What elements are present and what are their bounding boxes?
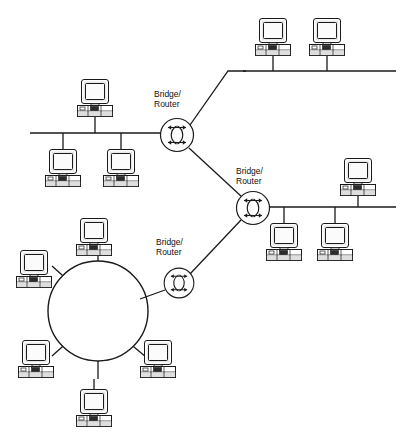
labels-group: Bridge/ Router Bridge/ Router Bridge/ Ro… <box>154 89 264 257</box>
computer-ring-bottom-left[interactable] <box>19 341 54 378</box>
bridge-router-icon <box>237 192 270 225</box>
token-ring-lan <box>48 246 148 379</box>
computer-top-bus-2[interactable] <box>310 19 345 56</box>
network-topology-svg: Bridge/ Router Bridge/ Router Bridge/ Ro… <box>0 0 402 433</box>
link-router-1-to-router-2 <box>189 148 242 197</box>
ring-circle <box>48 261 148 361</box>
computer-right-bus-lower-1[interactable] <box>267 224 302 261</box>
link-top-bus-to-router-1 <box>190 71 246 125</box>
computer-right-bus-top[interactable] <box>341 159 376 196</box>
bridge-router-2[interactable] <box>237 192 270 225</box>
computer-ring-bottom[interactable] <box>77 390 112 427</box>
network-diagram-canvas: Bridge/ Router Bridge/ Router Bridge/ Ro… <box>0 0 402 433</box>
bridge-router-1-label-line1: Bridge/ <box>154 89 182 99</box>
ring-spoke-bottom-left <box>52 346 63 356</box>
computer-left-bus-lower-1[interactable] <box>46 150 81 187</box>
routers-group <box>161 119 270 298</box>
computers-group <box>17 19 376 427</box>
link-router-2-to-router-3 <box>190 220 241 274</box>
computer-top-bus-1[interactable] <box>256 19 291 56</box>
computer-right-bus-lower-2[interactable] <box>318 224 353 261</box>
computer-left-bus-top[interactable] <box>78 80 113 117</box>
bridge-router-icon <box>164 268 194 298</box>
bridge-router-2-label-line2: Router <box>236 176 262 186</box>
ring-spoke-left <box>52 266 63 276</box>
computer-left-bus-lower-2[interactable] <box>104 150 139 187</box>
bridge-router-3[interactable] <box>164 268 194 298</box>
computer-ring-left[interactable] <box>17 251 52 288</box>
bridge-router-icon <box>161 119 194 152</box>
computer-ring-top[interactable] <box>77 219 112 256</box>
computer-ring-bottom-right[interactable] <box>141 341 176 378</box>
bridge-router-2-label-line1: Bridge/ <box>236 166 264 176</box>
bridge-router-1-label-line2: Router <box>154 99 180 109</box>
bridge-router-3-label-line2: Router <box>156 247 182 257</box>
bridge-router-1[interactable] <box>161 119 194 152</box>
bridge-router-3-label-line1: Bridge/ <box>156 237 184 247</box>
